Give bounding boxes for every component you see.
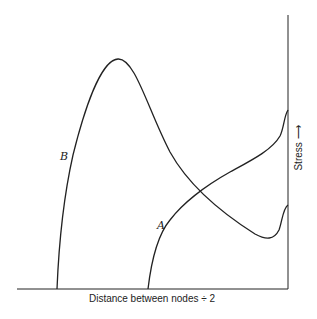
y-axis-label: Stress ⟶: [293, 125, 304, 170]
curve-b: [57, 59, 288, 289]
x-axis-label: Distance between nodes ÷ 2: [89, 293, 216, 304]
stress-distance-diagram: B A Distance between nodes ÷ 2 Stress ⟶: [0, 0, 317, 319]
curve-a-label: A: [156, 219, 165, 232]
curve-b-label: B: [59, 150, 68, 163]
curve-a: [148, 110, 288, 289]
